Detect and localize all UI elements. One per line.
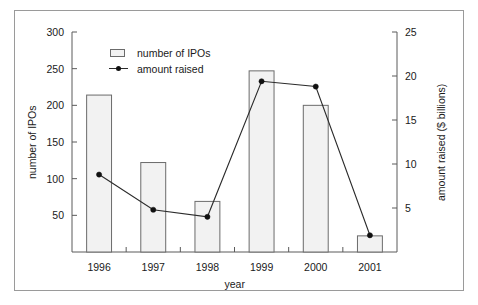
y-axis-left-tick-label: 50: [24, 209, 64, 221]
line-marker-1998: [205, 214, 210, 219]
x-axis-tick-label: 2000: [304, 261, 327, 273]
y-axis-left-tick-label: 250: [24, 63, 64, 75]
bar-2001: [357, 236, 382, 252]
y-axis-right-tick-label: 5: [405, 202, 435, 214]
y-axis-right-tick-label: 25: [405, 26, 435, 38]
legend-item-amount-raised: amount raised: [108, 62, 211, 76]
x-axis-tick-label: 1998: [196, 261, 219, 273]
bar-2000: [303, 105, 328, 252]
x-axis-title: year: [225, 278, 245, 290]
line-marker-1999: [259, 79, 264, 84]
y-axis-right-title: amount raised ($ billions): [435, 83, 447, 200]
y-axis-left-tick-label: 100: [24, 173, 64, 185]
bar-1999: [249, 71, 274, 252]
line-marker-2001: [367, 233, 372, 238]
legend-bar-swatch-icon: [108, 47, 130, 59]
legend-line-marker-icon: [108, 63, 130, 75]
x-axis-tick-label: 1996: [87, 261, 110, 273]
line-marker-1997: [151, 207, 156, 212]
legend-label-number-of-ipos: number of IPOs: [137, 47, 211, 59]
x-axis-tick-label: 1997: [142, 261, 165, 273]
legend-label-amount-raised: amount raised: [137, 63, 204, 75]
x-axis-tick-label: 2001: [358, 261, 381, 273]
line-marker-1996: [96, 172, 101, 177]
chart-plot-area: [0, 0, 478, 305]
y-axis-right-tick-label: 10: [405, 158, 435, 170]
x-axis-tick-label: 1999: [250, 261, 273, 273]
bar-1998: [195, 201, 220, 252]
legend-item-number-of-ipos: number of IPOs: [108, 46, 211, 60]
y-axis-right-tick-label: 15: [405, 114, 435, 126]
line-amount-raised: [99, 81, 370, 235]
chart-legend: number of IPOs amount raised: [108, 46, 211, 78]
y-axis-right-tick-label: 20: [405, 70, 435, 82]
line-marker-2000: [313, 84, 318, 89]
chart-svg: [0, 0, 478, 305]
y-axis-left-tick-label: 150: [24, 136, 64, 148]
y-axis-left-tick-label: 300: [24, 26, 64, 38]
y-axis-left-tick-label: 200: [24, 99, 64, 111]
